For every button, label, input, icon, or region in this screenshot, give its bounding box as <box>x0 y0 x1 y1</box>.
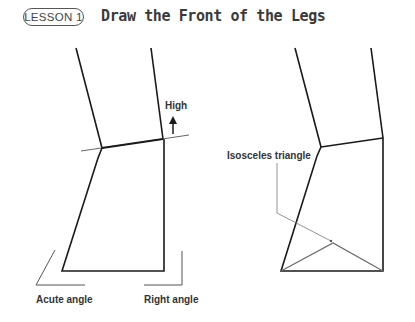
label-isosceles-triangle: Isosceles triangle <box>227 150 311 161</box>
label-high: High <box>165 100 187 111</box>
label-acute-angle: Acute angle <box>36 294 93 305</box>
left-leg-figure <box>36 48 189 285</box>
leg-diagrams <box>0 0 415 322</box>
label-right-angle: Right angle <box>144 294 198 305</box>
